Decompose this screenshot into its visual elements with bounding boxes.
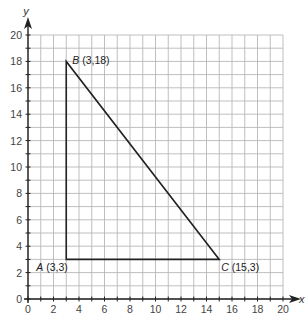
x-tick-label: 6 (102, 303, 108, 315)
y-tick-label: 14 (10, 108, 22, 120)
x-tick-label: 18 (252, 303, 264, 315)
y-tick-label: 18 (10, 55, 22, 67)
y-tick-label: 0 (16, 293, 22, 305)
x-tick-label: 10 (150, 303, 162, 315)
y-tick-label: 10 (10, 161, 22, 173)
y-tick-label: 20 (10, 29, 22, 41)
point-label-c: C (15,3) (221, 261, 259, 273)
point-label-b: B (3,18) (72, 54, 109, 66)
y-tick-label: 4 (16, 240, 22, 252)
point-labels: A (3,3)B (3,18)C (15,3) (35, 54, 259, 273)
x-tick-label: 12 (175, 303, 187, 315)
x-tick-label: 0 (25, 303, 31, 315)
coordinate-grid: 0246810121416182002468101214161820xy A (… (0, 0, 308, 325)
x-tick-label: 2 (51, 303, 57, 315)
x-axis-label: x (298, 293, 305, 305)
x-tick-label: 20 (277, 303, 289, 315)
y-tick-label: 16 (10, 82, 22, 94)
x-tick-label: 8 (127, 303, 133, 315)
y-tick-label: 2 (16, 267, 22, 279)
y-tick-label: 8 (16, 187, 22, 199)
point-label-a: A (3,3) (35, 261, 68, 273)
x-tick-label: 14 (201, 303, 213, 315)
x-tick-label: 4 (76, 303, 82, 315)
y-tick-label: 12 (10, 135, 22, 147)
y-axis-label: y (22, 5, 30, 17)
y-tick-label: 6 (16, 214, 22, 226)
x-tick-label: 16 (226, 303, 238, 315)
